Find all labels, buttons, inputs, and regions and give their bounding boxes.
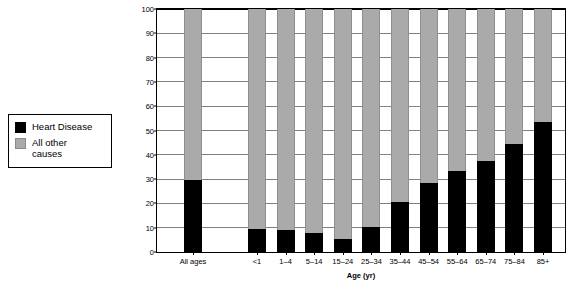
legend-item-all-other-causes: All other causes	[9, 137, 111, 159]
x-tick-label: 15–24	[332, 257, 353, 266]
bar-segment-all-other-causes	[277, 9, 295, 230]
bar-column	[184, 9, 202, 252]
bar-segment-heart-disease	[277, 230, 295, 252]
legend-item-label: All other causes	[32, 137, 67, 159]
y-tick-label: 70	[146, 77, 154, 86]
x-tick-mark	[400, 252, 401, 255]
bar-segment-heart-disease	[534, 122, 552, 252]
bar-segment-all-other-causes	[305, 9, 323, 233]
x-tick-label: 45–54	[418, 257, 439, 266]
bar-segment-heart-disease	[420, 183, 438, 252]
bar-series-group	[157, 9, 565, 252]
plot-area: 0102030405060708090100 All ages<11–45–14…	[156, 8, 566, 253]
bar-segment-heart-disease	[448, 171, 466, 252]
bar-column	[305, 9, 323, 252]
x-axis-title: Age (yr)	[156, 271, 566, 280]
bar-segment-heart-disease	[362, 227, 380, 252]
x-tick-mark	[486, 252, 487, 255]
bar-column	[505, 9, 523, 252]
bar-segment-all-other-causes	[420, 9, 438, 183]
bar-column	[248, 9, 266, 252]
legend-item-heart-disease: Heart Disease	[9, 121, 111, 133]
bar-segment-all-other-causes	[184, 9, 202, 180]
x-tick-label: 55–64	[447, 257, 468, 266]
x-tick-mark	[343, 252, 344, 255]
grey-square-swatch-icon	[15, 138, 26, 149]
x-tick-mark	[193, 252, 194, 255]
bar-column	[477, 9, 495, 252]
y-tick-label: 30	[146, 175, 154, 184]
bar-segment-heart-disease	[477, 161, 495, 252]
bar-segment-all-other-causes	[477, 9, 495, 161]
bar-segment-heart-disease	[248, 229, 266, 252]
bar-column	[391, 9, 409, 252]
y-tick-label: 100	[141, 5, 154, 14]
x-tick-mark	[514, 252, 515, 255]
bar-column	[448, 9, 466, 252]
x-tick-label: 35–44	[390, 257, 411, 266]
bar-segment-heart-disease	[184, 180, 202, 252]
x-tick-mark	[371, 252, 372, 255]
x-tick-label: 75–84	[504, 257, 525, 266]
y-tick-label: 20	[146, 199, 154, 208]
x-tick-mark	[457, 252, 458, 255]
x-tick-label: All ages	[180, 257, 207, 266]
x-tick-label: 25–34	[361, 257, 382, 266]
bar-segment-all-other-causes	[248, 9, 266, 229]
x-tick-mark	[286, 252, 287, 255]
y-tick-label: 60	[146, 102, 154, 111]
bar-column	[420, 9, 438, 252]
x-tick-label: 65–74	[475, 257, 496, 266]
x-tick-mark	[429, 252, 430, 255]
stacked-bar-chart: Percent of all deaths 010203040506070809…	[118, 6, 570, 278]
bar-segment-heart-disease	[505, 144, 523, 252]
x-tick-label: <1	[253, 257, 262, 266]
x-tick-label: 1–4	[279, 257, 292, 266]
y-tick-label: 40	[146, 150, 154, 159]
bar-column	[334, 9, 352, 252]
bar-segment-heart-disease	[391, 202, 409, 252]
y-tick-label: 90	[146, 29, 154, 38]
bar-segment-heart-disease	[305, 233, 323, 252]
x-tick-label: 5–14	[306, 257, 323, 266]
x-tick-label: 85+	[537, 257, 550, 266]
bar-column	[362, 9, 380, 252]
black-square-swatch-icon	[15, 122, 26, 133]
y-tick-label: 80	[146, 53, 154, 62]
chart-legend: Heart Disease All other causes	[8, 114, 112, 168]
bar-segment-all-other-causes	[334, 9, 352, 239]
bar-column	[534, 9, 552, 252]
y-tick-label: 0	[150, 248, 154, 257]
x-tick-mark	[257, 252, 258, 255]
bar-segment-all-other-causes	[448, 9, 466, 171]
bar-segment-all-other-causes	[362, 9, 380, 227]
legend-item-label: Heart Disease	[32, 121, 92, 132]
bar-segment-all-other-causes	[534, 9, 552, 122]
x-tick-mark	[314, 252, 315, 255]
bar-segment-all-other-causes	[505, 9, 523, 144]
bar-segment-all-other-causes	[391, 9, 409, 202]
bar-column	[277, 9, 295, 252]
x-tick-mark	[543, 252, 544, 255]
bar-segment-heart-disease	[334, 239, 352, 252]
y-tick-label: 10	[146, 223, 154, 232]
y-tick-label: 50	[146, 126, 154, 135]
